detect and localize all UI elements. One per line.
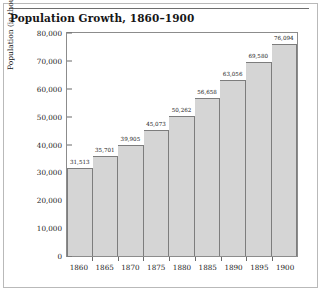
bar-value-label: 45,073 [146, 121, 166, 127]
bar-cell: 56,658 [195, 33, 221, 256]
y-axis-tick-label: 50,000 [37, 112, 62, 121]
bar: 35,701 [93, 156, 119, 256]
bar-cell: 39,905 [118, 33, 144, 256]
bar-cell: 76,094 [272, 33, 298, 256]
x-axis-tick-label: 1860 [70, 263, 88, 272]
bar-cell: 50,262 [169, 33, 195, 256]
x-axis-tick: 1860 [66, 257, 92, 279]
bar-cell: 63,056 [220, 33, 246, 256]
bar-value-label: 56,658 [197, 89, 217, 95]
bar-cell: 69,580 [246, 33, 272, 256]
bar: 69,580 [246, 62, 272, 256]
bar-value-label: 76,094 [274, 35, 294, 41]
x-axis-tick-mark [246, 257, 247, 261]
bar: 50,262 [169, 116, 195, 256]
x-axis-tick: 1885 [195, 257, 221, 279]
x-axis-tick-mark [169, 257, 170, 261]
x-axis-tick-label: 1890 [224, 263, 242, 272]
x-axis-tick-mark [221, 257, 222, 261]
bar-value-label: 31,513 [70, 159, 90, 165]
chart-figure: Population Growth, 1860–1900 Population … [0, 0, 321, 291]
x-axis-tick: 1880 [169, 257, 195, 279]
x-axis-tick-mark [118, 257, 119, 261]
x-axis-ticks: 186018651870187518801885189018951900 [66, 257, 298, 279]
bar: 56,658 [195, 98, 221, 256]
x-axis-tick-mark [92, 257, 93, 261]
plot-area: 010,00020,00030,00040,00050,00060,00070,… [66, 32, 298, 257]
bar-value-label: 50,262 [172, 107, 192, 113]
y-axis-tick-label: 20,000 [37, 196, 62, 205]
page-title: Population Growth, 1860–1900 [10, 12, 194, 24]
x-axis-tick: 1875 [143, 257, 169, 279]
bar: 76,094 [272, 44, 298, 256]
bar-series: 31,51335,70139,90545,07350,26256,65863,0… [67, 33, 297, 256]
y-axis-tick-label: 80,000 [37, 29, 62, 38]
x-axis-tick-mark [195, 257, 196, 261]
y-axis-tick-label: 30,000 [37, 168, 62, 177]
x-axis-tick-label: 1895 [250, 263, 268, 272]
x-axis-tick-mark [272, 257, 273, 261]
bar: 63,056 [220, 80, 246, 256]
x-axis-tick-label: 1870 [121, 263, 139, 272]
y-axis-tick-label: 0 [57, 252, 62, 261]
x-axis-tick-mark [143, 257, 144, 261]
x-axis-tick-label: 1875 [147, 263, 165, 272]
y-axis-tick-label: 60,000 [37, 84, 62, 93]
bar-cell: 45,073 [144, 33, 170, 256]
x-axis-tick: 1900 [272, 257, 298, 279]
bar-value-label: 63,056 [223, 71, 243, 77]
y-axis-tick-label: 40,000 [37, 140, 62, 149]
bar-value-label: 39,905 [121, 136, 141, 142]
x-axis-tick: 1890 [221, 257, 247, 279]
x-axis-tick-label: 1885 [199, 263, 217, 272]
bar-value-label: 35,701 [95, 147, 115, 153]
x-axis-tick-label: 1865 [95, 263, 113, 272]
y-axis-tick-label: 70,000 [37, 56, 62, 65]
y-axis-label: Population (in thousands) [6, 0, 15, 70]
bar-cell: 35,701 [93, 33, 119, 256]
title-divider-rule [9, 8, 309, 9]
bar: 39,905 [118, 145, 144, 256]
bar: 31,513 [67, 168, 93, 256]
x-axis-tick: 1870 [118, 257, 144, 279]
bar: 45,073 [144, 130, 170, 256]
bar-cell: 31,513 [67, 33, 93, 256]
y-axis-tick-label: 10,000 [37, 224, 62, 233]
x-axis-tick-label: 1880 [173, 263, 191, 272]
x-axis-tick: 1865 [92, 257, 118, 279]
x-axis-tick: 1895 [246, 257, 272, 279]
bar-value-label: 69,580 [248, 53, 268, 59]
x-axis-tick-label: 1900 [276, 263, 294, 272]
